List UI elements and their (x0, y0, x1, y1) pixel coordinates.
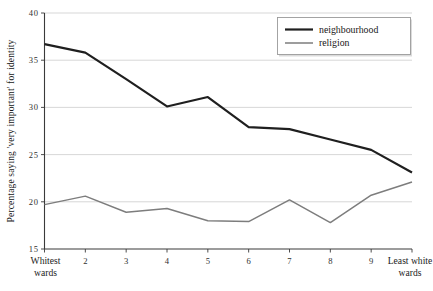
x-tick-labels: Whitestwards23456789Least whitewards (31, 255, 433, 278)
y-tick-label-20: 20 (29, 197, 39, 207)
legend-label-religion: religion (319, 37, 350, 48)
x-tick-label-5: 6 (247, 256, 252, 266)
y-tick-label-25: 25 (29, 150, 39, 160)
chart-legend: neighbourhoodreligion (278, 18, 413, 57)
x-tick-label-0-line2: wards (34, 267, 57, 278)
y-tick-label-40: 40 (29, 8, 39, 18)
x-tick-label-1: 2 (83, 256, 87, 266)
y-tick-label-35: 35 (29, 55, 39, 65)
x-tick-label-4: 5 (206, 256, 210, 266)
series-line-neighbourhood (45, 44, 413, 172)
legend-label-neighbourhood: neighbourhood (319, 24, 378, 35)
x-tick-label-9-line2: wards (399, 267, 422, 278)
x-tick-label-9-line1: Least white (388, 255, 433, 266)
chart-container: 152025303540 Percentage saying 'very imp… (0, 0, 433, 291)
y-tick-label-30: 30 (29, 102, 39, 112)
x-tick-label-3: 4 (165, 256, 170, 266)
series-line-religion (45, 182, 413, 223)
x-tick-label-6: 7 (287, 256, 292, 266)
line-chart: 152025303540 Percentage saying 'very imp… (0, 0, 433, 291)
y-axis-title: Percentage saying 'very important' for i… (6, 40, 16, 223)
x-tick-label-8: 9 (369, 256, 373, 266)
y-tick-label-15: 15 (29, 244, 39, 254)
data-series-group (45, 44, 413, 222)
x-tick-label-0-line1: Whitest (31, 255, 61, 266)
x-tick-label-2: 3 (124, 256, 128, 266)
y-tick-labels: 152025303540 (29, 8, 39, 254)
x-tick-label-7: 8 (328, 256, 332, 266)
